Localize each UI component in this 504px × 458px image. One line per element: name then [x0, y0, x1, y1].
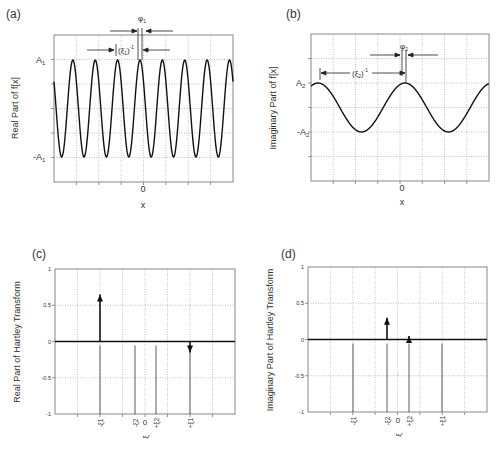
- panel-b: (b) A2 -A2 0 x Imaginary Part of f[x] φ2…: [268, 7, 489, 207]
- ytick-label: 0.5: [43, 302, 51, 308]
- ytick-label: 0: [48, 339, 51, 345]
- panel-a-tag: (a): [6, 7, 21, 21]
- arrow-head-icon: [187, 345, 193, 352]
- panel-a-xtick-zero: 0: [140, 184, 145, 194]
- ytick-label: 0: [301, 337, 304, 343]
- panel-a-ytick-top: A1: [36, 55, 46, 66]
- panel-a: (a) A1 -A1 0 x Real Part of f[x] φ1 (ξ1)…: [6, 7, 233, 210]
- panel-a-phi-label: φ1: [138, 14, 146, 24]
- panel-b-xlabel: x: [400, 197, 405, 207]
- panel-a-xlabel: x: [141, 200, 146, 210]
- panel-b-phi-arrows: [370, 50, 438, 82]
- ytick-label: 1: [48, 266, 51, 272]
- panel-a-ytick-bottom: -A1: [33, 152, 46, 163]
- panel-c-xlabel: ξ: [141, 435, 150, 439]
- panel-c-tag: (c): [32, 247, 46, 261]
- ytick-label: -0.5: [295, 373, 304, 379]
- panel-b-xtick-zero: 0: [399, 183, 404, 193]
- xtick-label: +ξ1: [187, 417, 195, 428]
- panel-b-ytick-top: A2: [296, 78, 306, 89]
- panel-b-ylabel: Imaginary Part of f[x]: [268, 66, 278, 149]
- panel-b-ytick-bottom: -A2: [297, 127, 310, 138]
- panel-a-phi-arrows: [110, 28, 173, 60]
- panel-a-ylabel: Real Part of f[x]: [10, 77, 20, 139]
- panel-d-ylabel: Imaginary Part of Hartley Transform: [265, 269, 275, 412]
- panel-b-grid: [308, 34, 489, 184]
- figure: (a) A1 -A1 0 x Real Part of f[x] φ1 (ξ1)…: [0, 0, 504, 458]
- ytick-label: -1: [299, 409, 304, 415]
- panel-d-yticks: 10.50-0.5-1: [295, 264, 304, 415]
- ytick-label: -0.5: [42, 375, 51, 381]
- panel-d-xlabel: ξ: [394, 433, 403, 437]
- xtick-label: -ξ2: [132, 418, 140, 427]
- xtick-label: -ξ1: [350, 416, 358, 425]
- panel-d-tag: (d): [281, 247, 296, 261]
- panel-a-period-label: (ξ1)-1: [118, 44, 134, 56]
- ytick-label: -1: [46, 411, 51, 417]
- xtick-label: +ξ2: [406, 415, 414, 426]
- panel-c: (c) 10.50-0.5-1 -ξ1-ξ20+ξ2+ξ1 ξ Real Par…: [12, 247, 235, 439]
- panel-c-xticks: -ξ1-ξ20+ξ2+ξ1: [97, 417, 195, 428]
- ytick-label: 0.5: [296, 300, 304, 306]
- panel-c-ylabel: Real Part of Hartley Transform: [12, 281, 22, 403]
- arrow-head-icon: [384, 318, 390, 325]
- xtick-label: -ξ2: [384, 416, 392, 425]
- xtick-zero: 0: [143, 418, 148, 427]
- xtick-label: +ξ2: [153, 417, 161, 428]
- ytick-label: 1: [301, 264, 304, 270]
- panel-c-yticks: 10.50-0.5-1: [42, 266, 51, 417]
- xtick-zero: 0: [396, 416, 401, 425]
- panel-d-grid: [305, 267, 487, 415]
- panel-b-period-label: (ξ2)-1: [352, 67, 368, 79]
- panel-c-grid: [52, 269, 235, 417]
- panel-d-xticks: -ξ1-ξ20+ξ2+ξ1: [350, 415, 447, 426]
- panel-b-tag: (b): [286, 7, 301, 21]
- xtick-label: -ξ1: [97, 418, 105, 427]
- arrow-head-icon: [97, 294, 103, 301]
- panel-d: (d) 10.50-0.5-1 -ξ1-ξ20+ξ2+ξ1 ξ Imaginar…: [265, 247, 487, 437]
- panel-b-phi-label: φ2: [400, 42, 408, 52]
- xtick-label: +ξ1: [439, 415, 447, 426]
